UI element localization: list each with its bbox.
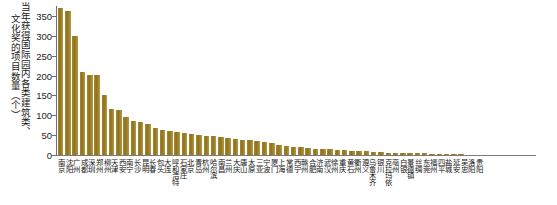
bar	[327, 149, 333, 155]
x-axis-tick-label: 徐州	[330, 158, 338, 171]
y-axis-tick-label: 350	[36, 10, 52, 21]
bar	[145, 124, 151, 155]
x-axis-tick-label: 贵阳	[475, 158, 483, 171]
bar	[123, 117, 129, 155]
bar	[458, 154, 464, 155]
x-axis-tick-label: 南宁	[125, 158, 133, 171]
x-axis-tick-label: 石家庄	[179, 158, 187, 178]
bar	[429, 154, 435, 155]
y-axis-tick-mark	[52, 135, 57, 136]
bar	[211, 136, 217, 155]
bar-series	[57, 6, 465, 155]
bar	[444, 154, 450, 155]
bar	[320, 149, 326, 155]
bar	[378, 152, 384, 155]
bar	[371, 152, 377, 155]
bar	[400, 153, 406, 155]
bar	[342, 150, 348, 155]
x-axis-tick-label: 吴忠	[459, 158, 467, 171]
x-axis-tick-label: 大连	[163, 158, 171, 171]
y-axis-tick-label: 200	[36, 70, 52, 81]
bar	[393, 153, 399, 155]
bar	[240, 140, 246, 155]
bar	[94, 75, 100, 155]
bar	[284, 146, 290, 155]
bar	[415, 153, 421, 155]
bar	[116, 110, 122, 155]
bar	[422, 153, 428, 155]
bar	[269, 143, 275, 155]
x-axis-tick-label: 三亚	[254, 158, 262, 171]
x-axis-tick-label: 乌鲁木齐	[368, 158, 376, 185]
bar	[407, 153, 413, 155]
plot-area	[57, 6, 465, 155]
bar	[131, 121, 137, 155]
bar	[174, 132, 180, 155]
y-axis-tick-label: 300	[36, 30, 52, 41]
bar	[335, 150, 341, 155]
bar	[437, 154, 443, 155]
bar	[80, 72, 86, 155]
bar-chart: 当年获得国际园内各类建筑类、 文化奖的项目数量（个） 0501001502002…	[0, 0, 557, 205]
bar	[87, 75, 93, 155]
x-axis-line	[56, 155, 536, 156]
y-axis-tick-mark	[52, 155, 57, 156]
bar	[276, 145, 282, 155]
bar	[225, 138, 231, 155]
x-axis-tick-labels: 南京沈阳广州成都深圳郑州柳州天津西安南宁长沙昆明长春包头大连呼和浩特石家庄北京青…	[57, 158, 465, 205]
bar	[349, 151, 355, 155]
y-axis-tick-mark	[52, 76, 57, 77]
bar	[313, 149, 319, 155]
bar	[356, 151, 362, 155]
bar	[364, 151, 370, 155]
y-axis-tick-mark	[52, 36, 57, 37]
bar	[298, 147, 304, 155]
x-axis-tick-label: 西宁	[292, 158, 300, 171]
y-axis-tick-mark	[52, 56, 57, 57]
x-axis-tick-label: 昆明	[141, 158, 149, 171]
bar	[160, 130, 166, 155]
bar	[247, 140, 253, 155]
x-axis-tick-label: 克拉玛依	[384, 158, 392, 185]
x-axis-tick-label: 景德镇	[406, 158, 414, 178]
bar	[386, 153, 392, 155]
bar	[102, 95, 108, 155]
x-axis-tick-label: 深圳	[87, 158, 95, 171]
bar	[204, 136, 210, 155]
y-axis-tick-label: 150	[36, 90, 52, 101]
bar	[182, 133, 188, 155]
bar	[138, 122, 144, 155]
x-axis-tick-label: 南昌	[216, 158, 224, 171]
x-axis-tick-label: 东莞	[422, 158, 430, 171]
bar	[451, 154, 457, 155]
y-axis-tick-label: 250	[36, 50, 52, 61]
y-axis-tick-label: 50	[41, 130, 52, 141]
bar	[167, 131, 173, 155]
y-axis-tick-mark	[52, 95, 57, 96]
bar	[254, 141, 260, 155]
bar	[65, 11, 71, 155]
bar	[72, 36, 78, 155]
bar	[218, 137, 224, 155]
bar	[305, 148, 311, 155]
y-axis-tick-labels: 050100150200250300350	[28, 0, 55, 160]
y-axis-title: 当年获得国际园内各类建筑类、 文化奖的项目数量（个）	[0, 0, 30, 160]
bar	[58, 8, 64, 155]
y-axis-tick-label: 100	[36, 110, 52, 121]
bar	[189, 134, 195, 155]
y-axis-tick-mark	[52, 16, 57, 17]
bar	[233, 139, 239, 155]
y-axis-title-line-2: 文化奖的项目数量（个）	[10, 0, 20, 120]
bar	[109, 109, 115, 155]
bar	[291, 147, 297, 155]
bar	[153, 128, 159, 155]
y-axis-tick-mark	[52, 115, 57, 116]
bar	[196, 135, 202, 155]
bar	[262, 142, 268, 155]
